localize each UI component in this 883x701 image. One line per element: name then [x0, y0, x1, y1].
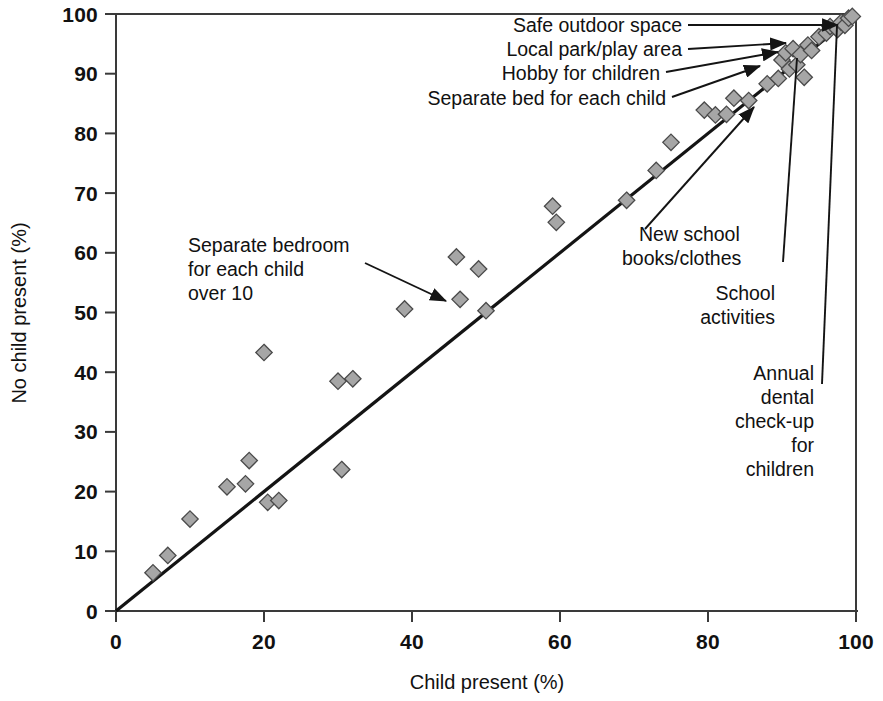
annotation-annual-dental-line2: dental	[761, 386, 814, 408]
data-point	[241, 452, 257, 468]
y-tick-label-80: 80	[74, 122, 98, 145]
annotation-annual-dental-line1: Annual	[753, 362, 814, 384]
y-tick-group: 0102030405060708090100	[62, 3, 116, 623]
annotation-new-school-line2: books/clothes	[622, 247, 741, 269]
data-point	[271, 492, 287, 508]
annotation-local-park-play-area: Local park/play area	[506, 38, 682, 60]
x-tick-label-60: 60	[548, 630, 572, 653]
data-point	[219, 479, 235, 495]
annotation-safe-outdoor-space: Safe outdoor space	[513, 14, 682, 36]
y-tick-label-100: 100	[62, 3, 98, 26]
annotation-separate-bed-for-each-child: Separate bed for each child	[428, 87, 667, 109]
annotation-school-activities-line2: activities	[700, 306, 775, 328]
annotation-new-school-line1: New school	[639, 223, 740, 245]
data-point	[544, 198, 560, 214]
data-point	[396, 301, 412, 317]
scatter-chart: 0102030405060708090100 020406080100	[0, 0, 883, 701]
y-tick-label-60: 60	[74, 241, 98, 264]
leader-annual-dental-check-up	[822, 26, 837, 384]
data-point	[548, 214, 564, 230]
data-point	[345, 371, 361, 387]
y-tick-label-90: 90	[74, 62, 98, 85]
x-tick-label-0: 0	[110, 630, 122, 653]
leader-separate-bed-for-each-child	[672, 66, 760, 97]
annotation-separate-bedroom-line3: over 10	[188, 282, 253, 304]
leader-hobby-for-children	[666, 52, 778, 72]
annotation-separate-bedroom-line1: Separate bedroom	[188, 234, 350, 256]
annotation-separate-bedroom-line2: for each child	[188, 258, 304, 280]
annotation-annual-dental-line5: children	[746, 458, 814, 480]
data-point	[648, 162, 664, 178]
y-tick-label-50: 50	[74, 301, 98, 324]
data-point	[448, 249, 464, 265]
data-point	[334, 461, 350, 477]
data-point	[718, 106, 734, 122]
x-tick-label-80: 80	[696, 630, 720, 653]
x-tick-label-20: 20	[252, 630, 276, 653]
data-point	[160, 547, 176, 563]
data-point	[237, 476, 253, 492]
y-tick-label-20: 20	[74, 480, 98, 503]
x-axis-title: Child present (%)	[410, 671, 565, 693]
annotation-hobby-for-children: Hobby for children	[502, 62, 660, 84]
y-tick-label-70: 70	[74, 182, 98, 205]
leader-local-park-play-area	[688, 43, 786, 49]
annotation-annual-dental-line4: for	[791, 434, 814, 456]
data-point	[182, 511, 198, 527]
leader-school-activities	[783, 58, 797, 262]
data-point	[330, 373, 346, 389]
annotation-annual-dental-line3: check-up	[735, 410, 814, 432]
data-point	[452, 291, 468, 307]
y-axis-title: No child present (%)	[8, 222, 30, 403]
annotation-text-group: Safe outdoor space Local park/play area …	[188, 14, 814, 480]
annotation-school-activities-line1: School	[715, 282, 775, 304]
y-tick-label-10: 10	[74, 540, 98, 563]
x-tick-group: 020406080100	[110, 611, 874, 653]
x-tick-label-100: 100	[838, 630, 874, 653]
data-point	[256, 344, 272, 360]
data-point	[470, 261, 486, 277]
plot-canvas: 0102030405060708090100 020406080100	[0, 0, 883, 701]
y-tick-label-40: 40	[74, 361, 98, 384]
data-point	[726, 90, 742, 106]
leader-separate-bedroom-over-10	[365, 263, 446, 301]
x-tick-label-40: 40	[400, 630, 424, 653]
y-tick-label-30: 30	[74, 420, 98, 443]
y-tick-label-0: 0	[86, 600, 98, 623]
data-point	[663, 134, 679, 150]
